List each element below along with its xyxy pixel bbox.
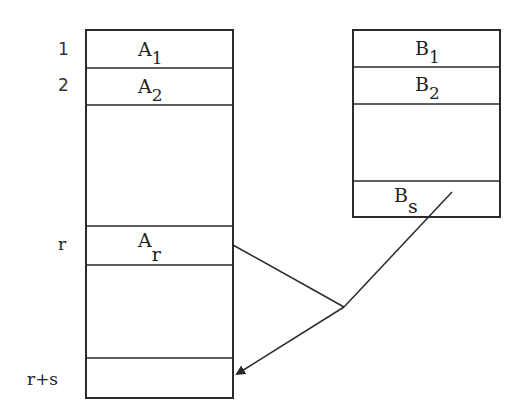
row-label-r-plus-s: r+s (27, 369, 58, 389)
cell-ar: Ar (137, 229, 162, 265)
arrow-to-r-plus-s (237, 307, 344, 374)
cell-b2: B2 (415, 73, 440, 103)
line-from-bs (344, 192, 452, 307)
diagram-canvas: A1 A2 Ar 1 2 r r+s B1 B2 Bs (0, 0, 528, 420)
row-label-2: 2 (58, 75, 69, 95)
array-b: B1 B2 Bs (353, 30, 500, 217)
cell-a2: A2 (137, 75, 163, 105)
merge-arrow (233, 192, 452, 374)
cell-bs: Bs (394, 184, 418, 217)
row-label-r: r (58, 234, 67, 254)
row-label-1: 1 (58, 39, 69, 59)
cell-b1: B1 (415, 37, 440, 67)
array-a: A1 A2 Ar 1 2 r r+s (27, 30, 233, 398)
cell-a1: A1 (137, 38, 163, 68)
line-from-ar (233, 245, 344, 307)
